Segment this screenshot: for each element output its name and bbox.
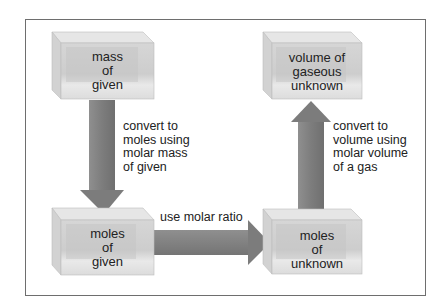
note-line: use molar ratio	[160, 211, 243, 225]
note-line: molar volume	[333, 147, 408, 161]
label-line: volume of	[272, 51, 362, 65]
label-line: given	[61, 255, 154, 269]
note-line: molar mass	[123, 147, 190, 161]
arrow-down-mass-to-moles	[80, 100, 124, 214]
label-line: moles	[272, 229, 362, 243]
box-label-moles-of-given: moles of given	[61, 227, 154, 269]
box-label-moles-of-unknown: moles of unknown	[272, 229, 362, 271]
label-line: gaseous	[272, 65, 362, 79]
arrow-up-moles-to-volume	[291, 101, 331, 220]
note-line: convert to	[123, 120, 190, 134]
box-label-volume-of-gaseous-unknown: volume of gaseous unknown	[272, 51, 362, 93]
arrow-note-molar-mass: convert to moles using molar mass of giv…	[123, 120, 190, 174]
note-line: volume using	[333, 134, 408, 148]
label-line: given	[61, 78, 154, 92]
label-line: unknown	[272, 79, 362, 93]
arrow-note-molar-volume: convert to volume using molar volume of …	[333, 120, 408, 174]
note-line: moles using	[123, 134, 190, 148]
note-line: of a gas	[333, 161, 408, 175]
box-label-mass-of-given: mass of given	[61, 50, 154, 92]
label-line: of	[61, 64, 154, 78]
label-line: unknown	[272, 257, 362, 271]
note-line: convert to	[333, 120, 408, 134]
label-line: of	[272, 243, 362, 257]
label-line: mass	[61, 50, 154, 64]
arrow-right-molar-ratio	[154, 220, 270, 265]
note-line: of given	[123, 161, 190, 175]
arrow-note-molar-ratio: use molar ratio	[160, 211, 243, 225]
label-line: of	[61, 241, 154, 255]
label-line: moles	[61, 227, 154, 241]
